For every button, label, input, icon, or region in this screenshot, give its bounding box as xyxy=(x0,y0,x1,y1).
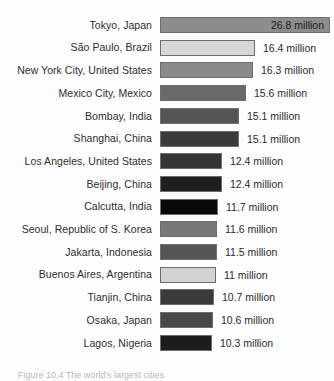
bar-track: 12.4 million xyxy=(160,151,334,171)
bar-track: 15.6 million xyxy=(160,83,334,103)
bar-value-label: 15.1 million xyxy=(247,111,300,122)
bar xyxy=(160,131,239,147)
bar-category-label: Tokyo, Japan xyxy=(0,20,152,31)
bar xyxy=(160,40,255,56)
horizontal-bar-chart: Tokyo, Japan26.8 millionSão Paulo, Brazi… xyxy=(0,0,334,368)
bar-track: 11.7 million xyxy=(160,197,334,217)
bar-category-label: Jakarta, Indonesia xyxy=(0,247,152,258)
bar-track: 11 million xyxy=(160,265,334,285)
bar-track: 12.4 million xyxy=(160,174,334,194)
bar-value-label: 15.1 million xyxy=(247,133,300,144)
bar xyxy=(160,176,222,192)
bar-row: Mexico City, Mexico15.6 million xyxy=(0,83,334,103)
bar-track: 11.6 million xyxy=(160,219,334,239)
bar xyxy=(160,244,217,260)
bar-value-label: 10.3 million xyxy=(220,338,273,349)
bar-category-label: Calcutta, India xyxy=(0,201,152,212)
bar-value-label: 11.5 million xyxy=(225,247,277,258)
bar-row: Los Angeles, United States12.4 million xyxy=(0,151,334,171)
bar-value-label: 10.7 million xyxy=(222,292,275,303)
bar-track: 15.1 million xyxy=(160,106,334,126)
bar-value-label: 15.6 million xyxy=(254,88,307,99)
bar xyxy=(160,289,214,305)
bar xyxy=(160,85,246,101)
bar-row: New York City, United States16.3 million xyxy=(0,60,334,80)
bar-row: Bombay, India15.1 million xyxy=(0,106,334,126)
bar-track: 10.6 million xyxy=(160,310,334,330)
bar xyxy=(160,62,253,78)
bar-row: Tokyo, Japan26.8 million xyxy=(0,15,334,35)
bar-value-label: 26.8 million xyxy=(271,20,324,31)
bar-track: 10.7 million xyxy=(160,287,334,307)
bar-row: Calcutta, India11.7 million xyxy=(0,197,334,217)
bar-category-label: São Paulo, Brazil xyxy=(0,42,152,53)
bar-track: 11.5 million xyxy=(160,242,334,262)
bar-value-label: 16.3 million xyxy=(261,65,314,76)
bar-value-label: 16.4 million xyxy=(263,42,316,53)
bar-category-label: Mexico City, Mexico xyxy=(0,88,152,99)
bar-category-label: Bombay, India xyxy=(0,111,152,122)
bar-category-label: Seoul, Republic of S. Korea xyxy=(0,224,152,235)
bar-row: Seoul, Republic of S. Korea11.6 million xyxy=(0,219,334,239)
bar-category-label: Buenos Aires, Argentina xyxy=(0,269,152,280)
bar-row: Beijing, China12.4 million xyxy=(0,174,334,194)
bar-category-label: Shanghai, China xyxy=(0,133,152,144)
bar-track: 26.8 million xyxy=(160,15,334,35)
bar-category-label: Beijing, China xyxy=(0,179,152,190)
bar xyxy=(160,335,212,351)
bar-value-label: 11.6 million xyxy=(225,224,277,235)
bar-value-label: 11 million xyxy=(224,269,268,280)
bar-value-label: 12.4 million xyxy=(230,156,283,167)
bar-row: Osaka, Japan10.6 million xyxy=(0,310,334,330)
bar-track: 10.3 million xyxy=(160,333,334,353)
bar-row: Jakarta, Indonesia11.5 million xyxy=(0,242,334,262)
bar-track: 16.3 million xyxy=(160,60,334,80)
bar-row: Shanghai, China15.1 million xyxy=(0,129,334,149)
bar-category-label: Lagos, Nigeria xyxy=(0,338,152,349)
bar-category-label: New York City, United States xyxy=(0,65,152,76)
bar xyxy=(160,153,222,169)
bar-row: Buenos Aires, Argentina11 million xyxy=(0,265,334,285)
bar-value-label: 10.6 million xyxy=(221,315,274,326)
bar xyxy=(160,267,216,283)
bar xyxy=(160,199,218,215)
bar-track: 16.4 million xyxy=(160,38,334,58)
bar-row: Lagos, Nigeria10.3 million xyxy=(0,333,334,353)
bar-category-label: Los Angeles, United States xyxy=(0,156,152,167)
bar xyxy=(160,221,217,237)
bar xyxy=(160,108,239,124)
bar-row: São Paulo, Brazil16.4 million xyxy=(0,38,334,58)
bar-category-label: Osaka, Japan xyxy=(0,315,152,326)
figure-caption: Figure 10.4 The world's largest cities xyxy=(18,370,334,381)
bar-value-label: 12.4 million xyxy=(230,179,283,190)
bar xyxy=(160,312,213,328)
bar-value-label: 11.7 million xyxy=(226,201,278,212)
bar-row: Tianjin, China10.7 million xyxy=(0,287,334,307)
bar-track: 15.1 million xyxy=(160,129,334,149)
bar-category-label: Tianjin, China xyxy=(0,292,152,303)
